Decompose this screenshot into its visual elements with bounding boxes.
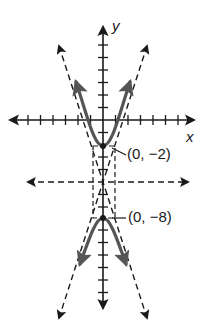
vertex-point-upper — [100, 143, 106, 149]
point-label-upper: (0, −2) — [127, 145, 171, 162]
point-label-lower: (0, −8) — [128, 208, 172, 225]
x-axis-label: x — [186, 128, 194, 145]
y-axis — [98, 27, 108, 308]
graph-canvas — [0, 0, 216, 323]
leader-upper — [112, 148, 126, 155]
y-axis-label: y — [112, 17, 120, 34]
x-axis — [10, 115, 194, 125]
hyperbola-figure: y x (0, −2) (0, −8) — [0, 0, 216, 323]
vertex-point-lower — [100, 215, 106, 221]
